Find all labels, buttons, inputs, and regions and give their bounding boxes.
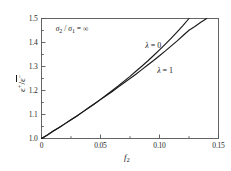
- y-axis-label-denominator: ε−: [16, 75, 26, 82]
- x-tick-label: 0: [29, 141, 55, 150]
- x-tick-label: 0.10: [147, 141, 173, 150]
- y-tick-label: 1.3: [16, 62, 38, 71]
- y-tick-label: 1.1: [16, 110, 38, 119]
- y-axis-label-den-sup: −: [16, 75, 23, 79]
- curve-label-lambda-0: λ = 0: [145, 41, 161, 50]
- chart-figure: 1.01.11.21.31.41.5 00.050.100.15 ε+/ε− f…: [0, 0, 230, 171]
- y-tick-label: 1.5: [16, 14, 38, 23]
- lambda-value-0: = 0: [151, 41, 162, 50]
- sigma-equals: =: [75, 24, 83, 33]
- x-axis-label-sub: 2: [127, 156, 130, 163]
- infinity-symbol: ∞: [83, 24, 88, 33]
- lambda-value-1: = 1: [163, 66, 174, 75]
- y-tick-label: 1.4: [16, 38, 38, 47]
- y-axis-label-num-sup: +: [16, 85, 23, 89]
- y-axis-label: ε+/ε−: [16, 75, 27, 92]
- x-tick-label: 0.05: [88, 141, 114, 150]
- curve-label-lambda-1: λ = 1: [157, 66, 173, 75]
- sigma-ratio-annotation: σ2 / σ1 = ∞: [56, 24, 89, 34]
- lambda-symbol-1: λ: [157, 66, 160, 75]
- y-axis-label-numerator: ε+: [17, 85, 27, 92]
- x-tick-label: 0.15: [206, 141, 231, 150]
- x-axis-label: f2: [124, 152, 130, 163]
- lambda-symbol-0: λ: [145, 41, 148, 50]
- y-axis-label-slash: /: [17, 82, 27, 85]
